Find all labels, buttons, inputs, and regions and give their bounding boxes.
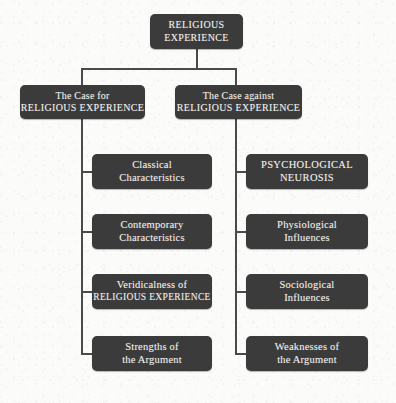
node-sociological-influences-line-1: Sociological: [280, 279, 335, 292]
node-weaknesses-line-2: the Argument: [277, 354, 337, 367]
diagram-canvas: RELIGIOUS EXPERIENCE The Case for RELIGI…: [0, 0, 396, 403]
node-classical-characteristics[interactable]: Classical Characteristics: [92, 154, 212, 189]
node-weaknesses-line-1: Weaknesses of: [275, 341, 339, 354]
node-sociological-influences[interactable]: Sociological Influences: [246, 274, 368, 309]
node-veridicalness-line-1: Veridicalness of: [117, 279, 188, 292]
node-contemporary-characteristics-line-2: Characteristics: [119, 232, 184, 245]
node-psychological-neurosis-line-2: NEUROSIS: [280, 172, 334, 185]
node-case-for[interactable]: The Case for RELIGIOUS EXPERIENCE: [20, 85, 145, 119]
connector-root-stem: [196, 48, 198, 70]
node-weaknesses-of-the-argument[interactable]: Weaknesses of the Argument: [246, 336, 368, 371]
node-case-against[interactable]: The Case against RELIGIOUS EXPERIENCE: [175, 85, 302, 119]
node-veridicalness[interactable]: Veridicalness of RELIGIOUS EXPERIENCE: [92, 274, 212, 309]
node-case-against-line-1: The Case against: [203, 90, 275, 102]
node-root-line-1: RELIGIOUS: [169, 19, 225, 31]
node-classical-characteristics-line-2: Characteristics: [119, 172, 184, 185]
node-root-line-2: EXPERIENCE: [164, 32, 229, 44]
node-strengths-line-1: Strengths of: [125, 341, 178, 354]
connector-drop-left-header: [81, 68, 83, 86]
node-strengths-line-2: the Argument: [122, 354, 182, 367]
node-psychological-neurosis-line-1: PSYCHOLOGICAL: [261, 159, 353, 172]
node-physiological-influences-line-1: Physiological: [277, 219, 337, 232]
connector-right-trunk: [235, 118, 237, 355]
node-veridicalness-line-2: RELIGIOUS EXPERIENCE: [93, 292, 211, 304]
connector-left-trunk: [81, 118, 83, 355]
node-sociological-influences-line-2: Influences: [284, 292, 330, 305]
node-case-against-line-2: RELIGIOUS EXPERIENCE: [177, 102, 300, 114]
node-physiological-influences-line-2: Influences: [284, 232, 330, 245]
connector-top-spine: [81, 68, 237, 70]
node-case-for-line-2: RELIGIOUS EXPERIENCE: [21, 102, 144, 114]
node-root-religious-experience[interactable]: RELIGIOUS EXPERIENCE: [150, 14, 243, 49]
node-contemporary-characteristics[interactable]: Contemporary Characteristics: [92, 214, 212, 249]
node-psychological-neurosis[interactable]: PSYCHOLOGICAL NEUROSIS: [246, 154, 368, 189]
node-case-for-line-1: The Case for: [55, 90, 109, 102]
node-physiological-influences[interactable]: Physiological Influences: [246, 214, 368, 249]
node-contemporary-characteristics-line-1: Contemporary: [120, 219, 183, 232]
connector-drop-right-header: [235, 68, 237, 86]
node-strengths-of-the-argument[interactable]: Strengths of the Argument: [92, 336, 212, 371]
node-classical-characteristics-line-1: Classical: [132, 159, 172, 172]
